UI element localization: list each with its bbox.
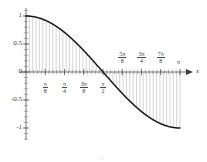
fraction-numerator: 5π xyxy=(118,51,126,57)
fraction-denominator: 2 xyxy=(100,87,105,94)
y-tick-label: 0.5 xyxy=(2,40,22,47)
figure-caption: π xyxy=(101,155,104,160)
fraction-denominator: 4 xyxy=(137,57,145,64)
x-tick-label-pi: π xyxy=(177,59,180,65)
x-tick-label-above: 5π8 xyxy=(115,50,129,66)
y-tick-label: 0 xyxy=(2,68,22,75)
fraction-denominator: 4 xyxy=(62,87,67,94)
x-axis-label: x xyxy=(196,68,199,75)
y-tick-label: -1 xyxy=(2,124,22,131)
y-tick-label: -0.5 xyxy=(2,96,22,103)
fraction-denominator: 8 xyxy=(118,57,126,64)
x-tick-label-below: π2 xyxy=(96,80,110,96)
x-tick-label-below: 3π8 xyxy=(77,80,91,96)
fraction-numerator: 3π xyxy=(137,51,145,57)
fraction-denominator: 8 xyxy=(157,57,165,64)
fraction-denominator: 8 xyxy=(80,87,88,94)
fraction-numerator: 7π xyxy=(157,51,165,57)
fraction-denominator: 8 xyxy=(43,87,48,94)
x-tick-label-above: 3π4 xyxy=(135,50,149,66)
y-tick-label: 1 xyxy=(2,12,22,19)
x-tick-label-below: π8 xyxy=(38,80,52,96)
function-plot: 10.50-0.5-1 π8π43π8π25π83π47π8π x π xyxy=(0,0,207,162)
x-tick-label-below: π4 xyxy=(58,80,72,96)
x-tick-label-above: 7π8 xyxy=(154,50,168,66)
fraction-numerator: 3π xyxy=(80,81,88,87)
x-axis-arrow xyxy=(186,69,193,75)
